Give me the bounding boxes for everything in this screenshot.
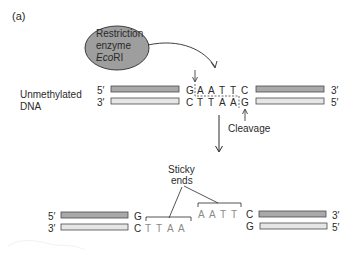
- dna-label-line1: Unmethylated: [20, 89, 82, 100]
- top-left-strand-upper: [111, 86, 179, 92]
- enzyme-eco: Eco: [96, 52, 114, 63]
- sticky-label-line2: ends: [171, 175, 193, 186]
- panel-label: (a): [12, 10, 25, 22]
- left-overhang-base-4: A: [178, 223, 185, 234]
- bottom-right-bottom-base: G: [246, 221, 254, 232]
- top-base-1: A: [197, 85, 204, 96]
- right-sticky-bracket: [198, 203, 241, 207]
- right-overhang-base-3: T: [231, 209, 237, 220]
- bottom-right-3prime: 3′: [332, 210, 340, 221]
- bottom-left-strand-upper: [61, 212, 128, 218]
- right-sticky-end: A A T T: [198, 209, 237, 220]
- bottom-right-top-base: C: [246, 209, 253, 220]
- top-base-3: T: [219, 85, 225, 96]
- bottom-right-strand-lower: [260, 223, 327, 229]
- bottom-left-5prime: 5′: [48, 211, 56, 222]
- bottom-left-strand-lower: [61, 224, 128, 230]
- recognition-site: G A A T T C C T T A A G: [186, 84, 249, 108]
- ecori-diagram: (a) Restriction enzyme EcoRI Unmethylate…: [0, 0, 362, 256]
- top-right-strand-lower: [256, 98, 324, 104]
- left-overhang-base-2: T: [156, 223, 162, 234]
- top-base-4: T: [230, 85, 236, 96]
- sticky-pointer-right: [184, 186, 218, 203]
- dna-label-line2: DNA: [20, 101, 41, 112]
- cleavage-label: Cleavage: [228, 123, 271, 134]
- enzyme-line3: EcoRI: [96, 52, 123, 63]
- bottom-base-5: G: [241, 97, 249, 108]
- left-overhang-base-0: C: [134, 223, 141, 234]
- left-overhang-base-1: T: [145, 223, 151, 234]
- right-overhang-base-0: A: [198, 209, 205, 220]
- scan-artifact: [8, 241, 85, 251]
- left-overhang-base-3: A: [167, 223, 174, 234]
- sticky-label-line1: Sticky: [168, 164, 195, 175]
- bottom-base-0: C: [186, 97, 193, 108]
- bottom-left-top-base: G: [134, 211, 142, 222]
- top-right-3prime: 3′: [331, 85, 339, 96]
- top-right-strand-upper: [256, 86, 324, 92]
- right-overhang-base-1: A: [209, 209, 216, 220]
- curved-arrow-icon: [148, 43, 215, 67]
- bottom-right-strand-upper: [259, 211, 326, 217]
- right-overhang-base-2: T: [220, 209, 226, 220]
- bottom-base-3: A: [219, 97, 226, 108]
- bottom-right-5prime: 5′: [332, 222, 340, 233]
- left-sticky-bracket: [146, 217, 191, 221]
- left-sticky-end: C T T A A: [134, 223, 185, 234]
- enzyme-line1: Restriction: [96, 28, 143, 39]
- bottom-left-3prime: 3′: [48, 223, 56, 234]
- sticky-pointer-left: [169, 187, 182, 218]
- top-base-2: A: [208, 85, 215, 96]
- bottom-base-4: A: [230, 97, 237, 108]
- top-right-5prime: 5′: [331, 97, 339, 108]
- bottom-base-2: T: [208, 97, 214, 108]
- top-base-5: C: [241, 85, 248, 96]
- top-left-strand-lower: [111, 98, 179, 104]
- top-left-3prime: 3′: [97, 97, 105, 108]
- enzyme-ecori: Restriction enzyme EcoRI: [85, 26, 149, 70]
- enzyme-ri: RI: [113, 52, 123, 63]
- bottom-base-1: T: [197, 97, 203, 108]
- enzyme-line2: enzyme: [96, 40, 131, 51]
- top-base-0: G: [186, 85, 194, 96]
- top-left-5prime: 5′: [97, 85, 105, 96]
